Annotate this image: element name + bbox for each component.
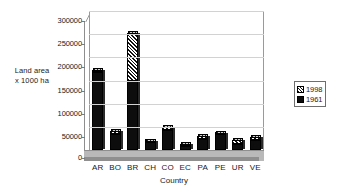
gridline [89, 34, 264, 35]
gridline [89, 81, 264, 82]
bar-column [92, 70, 103, 150]
x-axis-tick-label: BR [124, 163, 142, 173]
bar-segment-1961 [250, 140, 261, 150]
bar-side-face [226, 133, 228, 149]
bar-column [250, 137, 261, 150]
legend-item-label: 1961 [306, 95, 322, 104]
bar-segment-1961 [145, 142, 156, 150]
y-axis-tick-mark [81, 21, 85, 22]
bar-side-face [261, 137, 263, 149]
bar-side-face [138, 33, 140, 149]
bar-segment-1961 [92, 72, 103, 150]
x-axis-tick-label: CH [142, 163, 160, 173]
legend: 19981961 [294, 81, 326, 107]
x-axis-tick-label: PE [212, 163, 230, 173]
y-axis-tick-label: 300000 [48, 17, 82, 25]
bar-side-face [243, 140, 245, 149]
bar-segment-1961 [110, 134, 121, 150]
bar-column [197, 136, 208, 150]
bar-segment-1961 [180, 146, 191, 150]
y-axis-tick-label: 50000 [48, 133, 82, 141]
bar-segment-1961 [197, 139, 208, 150]
bar-top-face [146, 139, 156, 142]
bar-side-face [208, 136, 210, 149]
x-axis-tick-label: BO [107, 163, 125, 173]
gridline [89, 11, 264, 12]
bar-column [215, 133, 226, 150]
legend-item: 1961 [297, 94, 322, 104]
y-axis-tick-label: 200000 [48, 63, 82, 71]
legend-item: 1998 [297, 84, 322, 94]
y-axis-tick-label: 150000 [48, 87, 82, 95]
x-axis-tick-label: UR [229, 163, 247, 173]
bar-top-face [198, 134, 208, 137]
x-axis-title: Country [84, 176, 264, 185]
plot-area [84, 11, 264, 161]
gridline [89, 127, 264, 128]
bar-top-face [181, 142, 191, 145]
bar-column [162, 127, 173, 150]
y-axis-tick-labels: 050000100000150000200000250000300000 [48, 0, 82, 194]
y-axis-tick-label: 100000 [48, 110, 82, 118]
x-axis-tick-label: AR [89, 163, 107, 173]
legend-swatch-icon [297, 86, 304, 93]
x-axis-tick-label: VE [247, 163, 265, 173]
x-axis-tick-label: PA [194, 163, 212, 173]
legend-swatch-icon [297, 96, 304, 103]
bar-top-face [93, 68, 103, 71]
bar-segment-1961 [232, 144, 243, 150]
y-axis-tick-mark [81, 114, 85, 115]
bar-top-face [233, 138, 243, 141]
bar-top-face [216, 131, 226, 134]
bar-segment-1961 [162, 130, 173, 150]
bar-segment-1961 [215, 134, 226, 150]
x-axis-tick-label: EC [177, 163, 195, 173]
y-axis-tick-mark [81, 91, 85, 92]
bar-side-face [191, 144, 193, 149]
bar-side-face [156, 141, 158, 149]
bar-segment-1961 [127, 81, 138, 151]
legend-item-label: 1998 [306, 85, 322, 94]
bar-side-face [103, 70, 105, 149]
bar-column [110, 131, 121, 150]
y-axis-tick-mark [81, 44, 85, 45]
bar-column [232, 140, 243, 150]
bar-side-face [121, 131, 123, 149]
bar-top-face [251, 135, 261, 138]
x-axis-tick-label: CO [159, 163, 177, 173]
y-axis-tick-mark [81, 137, 85, 138]
gridline [89, 104, 264, 105]
x-axis-tick-labels: ARBOBRCHCOECPAPEURVE [84, 163, 264, 175]
y-axis-tick-mark [81, 67, 85, 68]
bar-column [145, 141, 156, 150]
bar-chart: Land area x 1000 ha 05000010000015000020… [0, 0, 339, 194]
y-axis-tick-mark [81, 158, 85, 159]
bar-column [127, 33, 138, 150]
bar-column [180, 144, 191, 150]
gridline [89, 57, 264, 58]
y-axis-tick-label: 0 [48, 154, 82, 162]
bar-side-face [173, 127, 175, 149]
y-axis-tick-label: 250000 [48, 40, 82, 48]
bar-top-face [111, 129, 121, 132]
